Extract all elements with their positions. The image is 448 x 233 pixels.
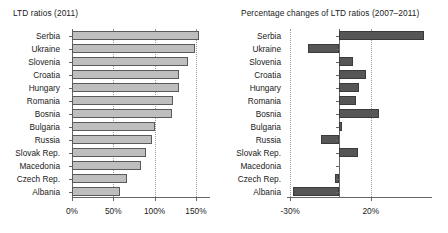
category-label: Czech Rep. [17,174,60,184]
chart-panel-ltd-ratios: LTD ratios (2011) SerbiaUkraineSloveniaC… [0,0,224,233]
bar-ltd-ratio [72,135,152,144]
category-label: Romania [248,96,281,106]
gridline-x [290,29,291,197]
y-axis-tick [336,153,339,154]
category-label: Slovenia [28,57,60,67]
x-axis-line-right [287,197,432,198]
y-axis-tick [69,179,72,180]
x-axis-tick [290,198,291,201]
y-axis-tick [336,127,339,128]
category-label: Albania [32,187,60,197]
y-axis-tick [69,153,72,154]
x-axis-tick-label: 20% [362,206,379,216]
category-label: Bosnia [35,109,60,119]
y-axis-tick [69,62,72,63]
category-labels-left: SerbiaUkraineSloveniaCroatiaHungaryRoman… [0,29,60,198]
bar-ltd-ratio [72,83,179,92]
category-label: Ukraine [31,44,60,54]
bar-ltd-ratio [72,96,173,105]
bar-ltd-ratio [72,70,179,79]
category-label: Hungary [250,83,281,93]
category-label: Slovenia [249,57,281,67]
category-label: Albania [253,187,281,197]
x-axis-tick-label: 0% [66,206,78,216]
x-axis-line-left [72,197,210,198]
category-label: Hungary [29,83,60,93]
x-axis-tick [196,198,197,201]
bar-change-positive [339,70,366,79]
y-axis-tick [69,49,72,50]
plot-area-right: -30%20% [287,29,432,198]
bar-change-positive [339,148,358,157]
x-axis-tick-label: 50% [105,206,122,216]
bar-ltd-ratio [72,148,146,157]
category-label: Slovak Rep. [15,148,60,158]
bar-ltd-ratio [72,122,155,131]
y-axis-tick [336,49,339,50]
bar-change-positive [339,83,360,92]
x-axis-labels-left: 0%50%100%150% [72,200,210,214]
bar-change-positive [339,57,354,66]
gridline-x [196,29,197,197]
bar-change-negative [308,44,339,53]
bar-ltd-ratio [72,174,127,183]
category-label: Russia [35,135,60,145]
category-label: Bulgaria [30,122,60,132]
y-axis-tick [336,101,339,102]
bar-change-positive [339,122,342,131]
y-axis-tick [69,140,72,141]
bar-ltd-ratio [72,109,172,118]
y-axis-tick [336,36,339,37]
category-label: Russia [256,135,281,145]
x-axis-tick [371,198,372,201]
bar-ltd-ratio [72,161,141,170]
x-axis-tick-label: 150% [185,206,206,216]
y-axis-tick [69,101,72,102]
y-axis-tick [69,75,72,76]
y-axis-tick [69,127,72,128]
x-axis-tick-label: 100% [144,206,165,216]
category-labels-right: SerbiaUkraineSloveniaCroatiaHungaryRoman… [219,29,281,198]
category-label: Bulgaria [251,122,281,132]
category-label: Czech Rep. [238,174,281,184]
category-label: Bosnia [256,109,281,119]
bar-change-negative [293,187,338,196]
bar-ltd-ratio [72,44,195,53]
figure-root: LTD ratios (2011) SerbiaUkraineSloveniaC… [0,0,448,233]
x-axis-labels-right: -30%20% [287,200,432,214]
y-axis-tick [69,36,72,37]
category-label: Macedonia [19,161,60,171]
y-axis-tick [336,140,339,141]
y-axis-tick [69,166,72,167]
y-axis-tick [336,62,339,63]
category-label: Ukraine [252,44,281,54]
y-axis-tick [336,114,339,115]
chart-panel-ltd-changes: Percentage changes of LTD ratios (2007–2… [224,0,448,233]
y-axis-tick [336,75,339,76]
bar-ltd-ratio [72,31,199,40]
bar-ltd-ratio [72,57,188,66]
x-axis-tick-label: -30% [281,206,300,216]
y-axis-tick [336,192,339,193]
x-axis-tick [72,198,73,201]
x-axis-tick [155,198,156,201]
y-axis-tick [336,166,339,167]
category-label: Macedonia [240,161,281,171]
category-label: Romania [27,96,60,106]
bar-change-positive [339,96,357,105]
y-axis-tick [69,114,72,115]
bar-ltd-ratio [72,187,120,196]
category-label: Croatia [254,70,281,80]
category-label: Serbia [36,31,60,41]
chart-title-right: Percentage changes of LTD ratios (2007–2… [241,8,419,18]
y-axis-tick [69,88,72,89]
category-label: Croatia [33,70,60,80]
bar-change-positive [339,31,424,40]
bar-change-positive [339,109,379,118]
y-axis-tick [69,192,72,193]
plot-area-left: 0%50%100%150% [72,29,210,198]
y-axis-tick [336,179,339,180]
category-label: Slovak Rep. [236,148,281,158]
chart-title-left: LTD ratios (2011) [13,8,78,18]
y-axis-tick [336,88,339,89]
